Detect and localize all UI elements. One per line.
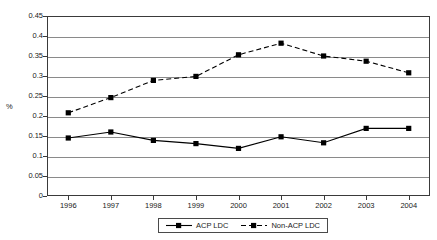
x-axis-tick-mark bbox=[281, 196, 282, 200]
y-axis-title: % bbox=[6, 103, 13, 111]
x-axis-tick-label: 1999 bbox=[176, 202, 216, 210]
data-point-marker bbox=[321, 53, 326, 58]
legend-entry-1: ACP LDC bbox=[166, 221, 228, 230]
line-chart: % 00.050.10.150.20.250.30.350.40.45 1996… bbox=[0, 0, 437, 240]
data-point-marker bbox=[364, 59, 369, 64]
data-point-marker bbox=[278, 134, 283, 139]
legend-label: ACP LDC bbox=[196, 222, 228, 230]
y-axis-tick-mark bbox=[43, 196, 47, 197]
y-axis-tick-label: 0 bbox=[3, 192, 43, 200]
x-axis-tick-mark bbox=[111, 196, 112, 200]
data-point-marker bbox=[193, 141, 198, 146]
data-point-marker bbox=[108, 95, 113, 100]
data-point-marker bbox=[151, 138, 156, 143]
data-point-marker bbox=[364, 126, 369, 131]
legend-swatch-1 bbox=[166, 221, 192, 230]
x-axis-tick-mark bbox=[324, 196, 325, 200]
y-axis-tick-label: 0.2 bbox=[3, 112, 43, 120]
data-point-marker bbox=[236, 52, 241, 57]
data-point-marker bbox=[236, 146, 241, 151]
x-axis-tick-label: 2002 bbox=[304, 202, 344, 210]
x-axis-tick-label: 2003 bbox=[346, 202, 386, 210]
x-axis-tick-mark bbox=[68, 196, 69, 200]
data-point-marker bbox=[193, 74, 198, 79]
x-axis-tick-label: 1996 bbox=[48, 202, 88, 210]
y-axis-tick-label: 0.1 bbox=[3, 152, 43, 160]
x-axis-tick-mark bbox=[239, 196, 240, 200]
data-point-marker bbox=[66, 135, 71, 140]
data-point-marker bbox=[108, 129, 113, 134]
y-axis-tick-label: 0.3 bbox=[3, 72, 43, 80]
data-point-marker bbox=[406, 70, 411, 75]
x-axis-tick-label: 2004 bbox=[389, 202, 429, 210]
data-point-marker bbox=[151, 78, 156, 83]
x-axis-tick-label: 2000 bbox=[219, 202, 259, 210]
data-point-marker bbox=[66, 110, 71, 115]
x-axis-tick-mark bbox=[366, 196, 367, 200]
x-axis-tick-label: 1998 bbox=[133, 202, 173, 210]
data-point-marker bbox=[278, 41, 283, 46]
y-axis-tick-label: 0.35 bbox=[3, 52, 43, 60]
y-axis-tick-label: 0.15 bbox=[3, 132, 43, 140]
legend-swatch-2 bbox=[241, 221, 267, 230]
x-axis-tick-mark bbox=[409, 196, 410, 200]
y-axis-tick-label: 0.05 bbox=[3, 172, 43, 180]
chart-legend: ACP LDCNon-ACP LDC bbox=[158, 218, 328, 233]
y-axis-tick-label: 0.25 bbox=[3, 92, 43, 100]
series-line-1 bbox=[68, 128, 408, 148]
data-point-marker bbox=[406, 126, 411, 131]
legend-entry-2: Non-ACP LDC bbox=[241, 221, 320, 230]
series-layer bbox=[47, 16, 430, 196]
y-axis-tick-label: 0.4 bbox=[3, 32, 43, 40]
y-axis-tick-label: 0.45 bbox=[3, 12, 43, 20]
legend-label: Non-ACP LDC bbox=[271, 222, 320, 230]
x-axis-tick-mark bbox=[153, 196, 154, 200]
x-axis-tick-label: 2001 bbox=[261, 202, 301, 210]
x-axis-tick-label: 1997 bbox=[91, 202, 131, 210]
x-axis-tick-mark bbox=[196, 196, 197, 200]
data-point-marker bbox=[321, 140, 326, 145]
